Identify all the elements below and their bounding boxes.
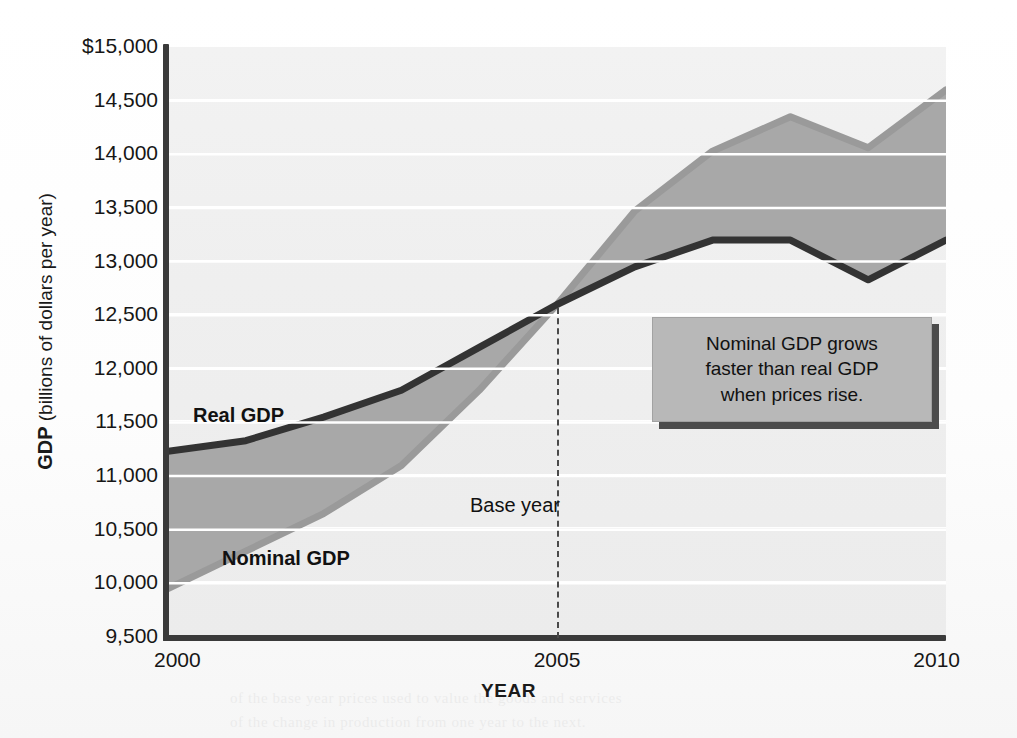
callout-line-2: faster than real GDP — [663, 356, 921, 381]
y-tick-label: 11,500 — [0, 409, 158, 433]
base-year-label: Base year — [440, 494, 590, 517]
y-tick-label: 14,500 — [0, 88, 158, 112]
y-tick-label: 11,000 — [0, 463, 158, 487]
y-tick-label: 12,000 — [0, 356, 158, 380]
y-tick-label: 10,500 — [0, 517, 158, 541]
y-tick-label: 12,500 — [0, 302, 158, 326]
gdp-chart-figure: Base year Real GDP Nominal GDP Nominal G… — [0, 0, 1017, 738]
y-tick-label: 10,000 — [0, 570, 158, 594]
x-axis-line — [163, 635, 946, 641]
x-tick-label: 2000 — [154, 648, 214, 672]
x-tick-label: 2005 — [527, 648, 587, 672]
y-axis-line — [163, 44, 169, 641]
y-tick-label: $15,000 — [0, 34, 158, 58]
callout-line-3: when prices rise. — [663, 382, 921, 407]
y-tick-label: 14,000 — [0, 141, 158, 165]
x-tick-label: 2010 — [900, 648, 960, 672]
y-tick-label: 13,000 — [0, 249, 158, 273]
real-gdp-series-label: Real GDP — [193, 404, 284, 427]
nominal-gdp-series-label: Nominal GDP — [222, 547, 350, 570]
base-year-dashed-line — [557, 308, 559, 638]
annotation-callout: Nominal GDP grows faster than real GDP w… — [652, 317, 932, 422]
y-tick-label: 13,500 — [0, 195, 158, 219]
y-tick-label: 9,500 — [0, 624, 158, 648]
callout-line-1: Nominal GDP grows — [663, 331, 921, 356]
x-axis-title: YEAR — [0, 680, 1017, 702]
